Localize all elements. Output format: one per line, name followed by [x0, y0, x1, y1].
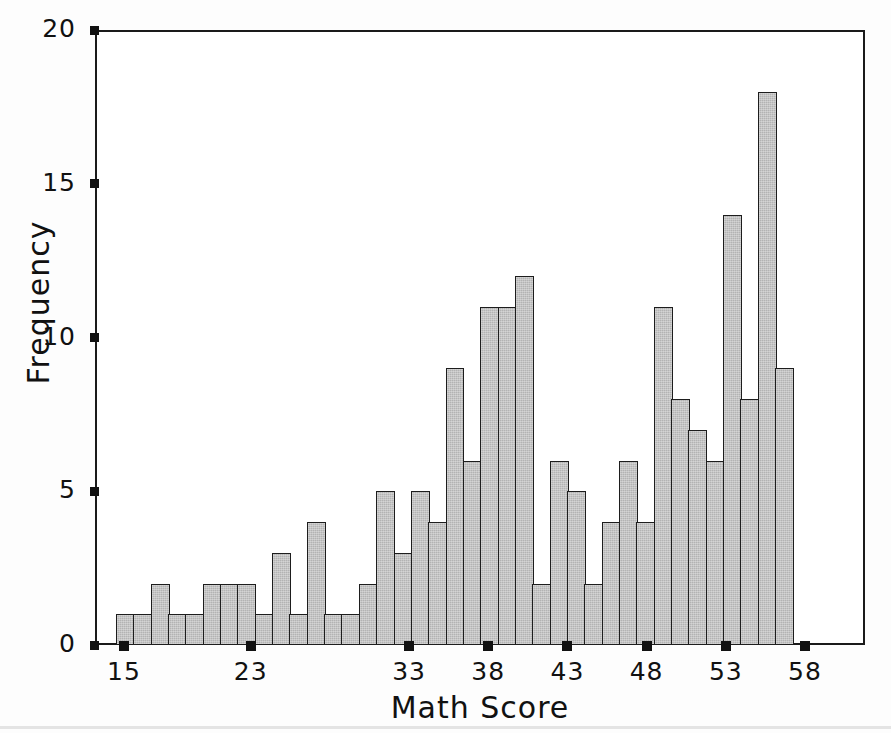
histogram-bar — [411, 491, 430, 645]
y-axis-tick — [90, 641, 99, 650]
histogram-bar — [619, 461, 638, 646]
x-axis-tick — [246, 641, 256, 651]
histogram-bar — [133, 614, 152, 645]
histogram-bar — [723, 215, 742, 646]
y-axis-title: Frequency — [21, 173, 56, 433]
histogram-bar — [289, 614, 308, 645]
histogram-bar — [584, 584, 603, 646]
histogram-bar — [341, 614, 360, 645]
histogram-bar — [671, 399, 690, 645]
histogram-bar — [636, 522, 655, 645]
histogram-bar — [567, 491, 586, 645]
page-footer-rule — [0, 726, 891, 729]
y-axis-tick — [90, 333, 99, 342]
histogram-bar — [480, 307, 499, 645]
histogram-bar — [151, 584, 170, 646]
histogram-bar — [446, 368, 465, 645]
histogram-bar — [740, 399, 759, 645]
y-axis-tick-label: 0 — [18, 629, 76, 658]
histogram-bar — [550, 461, 569, 646]
x-axis-tick — [483, 641, 493, 651]
y-axis-tick-label: 5 — [18, 475, 76, 504]
x-axis-tick-label: 43 — [537, 657, 597, 686]
x-axis-tick-label: 38 — [458, 657, 518, 686]
histogram-bar — [498, 307, 517, 645]
histogram-bar — [185, 614, 204, 645]
y-axis-tick-label: 20 — [18, 14, 76, 43]
histogram-bar — [307, 522, 326, 645]
histogram-bar — [428, 522, 447, 645]
histogram-bar — [359, 584, 378, 646]
histogram-bar — [324, 614, 343, 645]
x-axis-tick — [642, 641, 652, 651]
histogram-bar — [688, 430, 707, 645]
histogram-bar — [168, 614, 187, 645]
histogram-bar — [463, 461, 482, 646]
x-axis-tick — [800, 641, 810, 651]
histogram-bar — [758, 92, 777, 646]
x-axis-tick-label: 58 — [775, 657, 835, 686]
histogram-bar — [654, 307, 673, 645]
x-axis-tick-label: 23 — [221, 657, 281, 686]
histogram-bar — [237, 584, 256, 646]
x-axis-tick-label: 48 — [617, 657, 677, 686]
y-axis-tick — [90, 26, 99, 35]
x-axis-tick — [562, 641, 572, 651]
histogram-bar — [532, 584, 551, 646]
x-axis-tick — [119, 641, 129, 651]
y-axis-tick — [90, 179, 99, 188]
histogram-bar — [394, 553, 413, 645]
x-axis-tick — [721, 641, 731, 651]
histogram-bar — [775, 368, 794, 645]
histogram-bar — [203, 584, 222, 646]
histogram-bar — [220, 584, 239, 646]
x-axis-title: Math Score — [95, 690, 865, 725]
histogram-bars — [116, 30, 855, 645]
x-axis-tick — [404, 641, 414, 651]
histogram-bar — [515, 276, 534, 645]
x-axis-tick-label: 53 — [696, 657, 756, 686]
x-axis-tick-label: 33 — [379, 657, 439, 686]
chart-canvas: 05101520 1523333843485358 Frequency Math… — [0, 0, 891, 733]
histogram-bar — [706, 461, 725, 646]
y-axis-tick — [90, 487, 99, 496]
histogram-bar — [376, 491, 395, 645]
histogram-bar — [255, 614, 274, 645]
histogram-bar — [272, 553, 291, 645]
histogram-bar — [602, 522, 621, 645]
x-axis-tick-label: 15 — [94, 657, 154, 686]
